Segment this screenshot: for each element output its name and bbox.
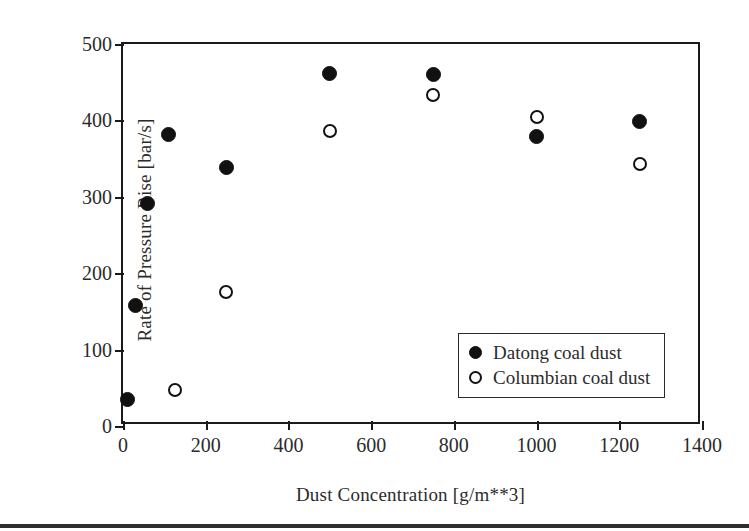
filled-circle-icon	[469, 346, 482, 359]
x-tick-mark	[288, 421, 290, 430]
data-point	[168, 383, 182, 397]
y-tick-label: 0	[102, 415, 112, 438]
data-point	[120, 392, 135, 407]
data-point	[219, 160, 234, 175]
open-circle-icon	[469, 371, 482, 384]
y-tick-mark	[115, 120, 124, 122]
y-tick-label: 100	[82, 338, 112, 361]
y-tick-label: 400	[82, 109, 112, 132]
x-tick-mark	[371, 421, 373, 430]
data-point	[426, 67, 441, 82]
x-axis-title: Dust Concentration [g/m**3]	[121, 484, 700, 506]
x-tick-label: 200	[191, 434, 221, 457]
legend-label: Columbian coal dust	[493, 367, 650, 389]
y-tick-label: 300	[82, 185, 112, 208]
x-tick-mark	[702, 421, 704, 430]
y-tick-mark	[115, 44, 124, 46]
x-tick-label: 800	[439, 434, 469, 457]
data-point	[128, 298, 143, 313]
y-tick-label: 200	[82, 262, 112, 285]
data-point	[322, 66, 337, 81]
data-point	[161, 127, 176, 142]
plot-area: Rate of Pressure Rise [bar/s] 0100200300…	[121, 42, 700, 424]
x-tick-mark	[537, 421, 539, 430]
y-tick-mark	[115, 350, 124, 352]
data-point	[219, 285, 233, 299]
x-tick-mark	[619, 421, 621, 430]
x-tick-mark	[123, 421, 125, 430]
legend-entry-datong: Datong coal dust	[469, 340, 650, 365]
x-tick-mark	[206, 421, 208, 430]
x-tick-label: 600	[356, 434, 386, 457]
data-point	[323, 124, 337, 138]
scatter-chart-figure: Rate of Pressure Rise [bar/s] 0100200300…	[0, 0, 749, 531]
x-tick-label: 1200	[599, 434, 639, 457]
y-tick-mark	[115, 273, 124, 275]
data-point	[529, 129, 544, 144]
data-point	[530, 110, 544, 124]
page-divider-rule	[0, 524, 749, 528]
data-point	[426, 88, 440, 102]
x-tick-label: 1400	[682, 434, 722, 457]
y-axis-title: Rate of Pressure Rise [bar/s]	[134, 30, 156, 430]
chart-legend: Datong coal dust Columbian coal dust	[458, 333, 665, 398]
data-point	[632, 114, 647, 129]
x-tick-label: 400	[273, 434, 303, 457]
data-point	[633, 157, 647, 171]
x-tick-label: 1000	[517, 434, 557, 457]
y-tick-mark	[115, 197, 124, 199]
legend-label: Datong coal dust	[493, 342, 622, 364]
x-tick-mark	[454, 421, 456, 430]
x-tick-label: 0	[118, 434, 128, 457]
y-tick-label: 500	[82, 33, 112, 56]
legend-entry-columbian: Columbian coal dust	[469, 365, 650, 390]
